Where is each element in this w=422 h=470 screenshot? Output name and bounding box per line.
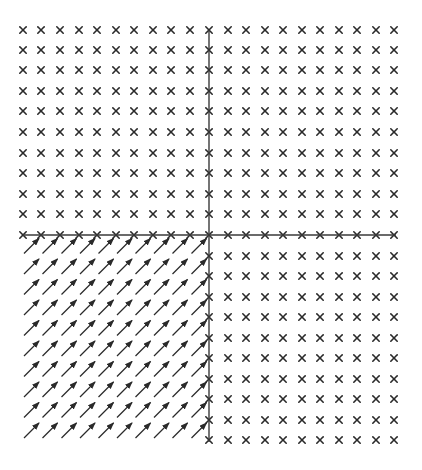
- cross-icon: [262, 191, 268, 197]
- arrow-icon: [117, 362, 132, 377]
- cross-icon: [76, 191, 82, 197]
- cross-icon: [354, 67, 360, 73]
- cross-icon: [243, 150, 249, 156]
- arrow-icon: [43, 280, 58, 295]
- cross-icon: [225, 376, 231, 382]
- arrow-icon: [117, 423, 132, 438]
- cross-icon: [20, 67, 26, 73]
- vector-field-diagram: [0, 0, 422, 470]
- cross-icon: [20, 108, 26, 114]
- cross-icon: [391, 335, 397, 341]
- arrow-icon: [24, 321, 39, 336]
- cross-icon: [94, 150, 100, 156]
- cross-icon: [336, 335, 342, 341]
- cross-icon: [243, 67, 249, 73]
- cross-icon: [262, 108, 268, 114]
- cross-icon: [38, 211, 44, 217]
- cross-icon: [373, 355, 379, 361]
- arrow-icon: [173, 280, 188, 295]
- arrow-icon: [43, 382, 58, 397]
- cross-icon: [391, 150, 397, 156]
- arrow-icon: [173, 239, 188, 254]
- cross-icon: [38, 191, 44, 197]
- diagram-svg: [0, 0, 422, 470]
- cross-icon: [373, 437, 379, 443]
- cross-icon: [299, 191, 305, 197]
- cross-icon: [243, 88, 249, 94]
- cross-icon: [168, 27, 174, 33]
- cross-icon: [280, 27, 286, 33]
- cross-icon: [113, 27, 119, 33]
- arrow-icon: [154, 300, 169, 315]
- cross-icon: [299, 396, 305, 402]
- cross-icon: [168, 129, 174, 135]
- cross-icon: [317, 211, 323, 217]
- cross-icon: [150, 170, 156, 176]
- cross-icon: [225, 437, 231, 443]
- cross-icon: [336, 314, 342, 320]
- cross-icon: [131, 67, 137, 73]
- cross-icon: [94, 67, 100, 73]
- cross-icon: [391, 355, 397, 361]
- cross-icon: [354, 273, 360, 279]
- cross-icon: [20, 211, 26, 217]
- arrow-icon: [154, 321, 169, 336]
- cross-icon: [280, 211, 286, 217]
- cross-icon: [20, 191, 26, 197]
- cross-icon: [94, 211, 100, 217]
- cross-icon: [299, 108, 305, 114]
- cross-icon: [113, 67, 119, 73]
- cross-icon: [262, 273, 268, 279]
- cross-icon: [354, 335, 360, 341]
- arrow-icon: [173, 423, 188, 438]
- cross-icon: [131, 129, 137, 135]
- cross-icon: [76, 108, 82, 114]
- cross-icon: [187, 129, 193, 135]
- cross-icon: [280, 396, 286, 402]
- arrow-icon: [24, 423, 39, 438]
- cross-icon: [354, 376, 360, 382]
- cross-icon: [76, 129, 82, 135]
- cross-icon: [354, 27, 360, 33]
- cross-icon: [225, 47, 231, 53]
- arrow-icon: [80, 321, 95, 336]
- cross-icon: [354, 355, 360, 361]
- cross-icon: [391, 108, 397, 114]
- cross-icon: [150, 108, 156, 114]
- cross-icon: [280, 273, 286, 279]
- arrow-icon: [192, 403, 207, 418]
- cross-icon: [354, 47, 360, 53]
- cross-icon: [113, 88, 119, 94]
- cross-icon: [262, 27, 268, 33]
- arrow-icon: [136, 280, 151, 295]
- cross-icon: [317, 253, 323, 259]
- cross-icon: [391, 437, 397, 443]
- arrow-icon: [62, 280, 77, 295]
- cross-icon: [225, 396, 231, 402]
- cross-icon: [317, 67, 323, 73]
- arrow-icon: [43, 341, 58, 356]
- arrow-icon: [154, 259, 169, 274]
- cross-icon: [336, 108, 342, 114]
- cross-icon: [225, 253, 231, 259]
- cross-icon: [131, 47, 137, 53]
- cross-icon: [113, 47, 119, 53]
- cross-icon: [336, 355, 342, 361]
- cross-icon: [57, 47, 63, 53]
- cross-icon: [225, 417, 231, 423]
- arrow-icon: [117, 403, 132, 418]
- cross-icon: [57, 211, 63, 217]
- arrow-icon: [117, 341, 132, 356]
- cross-icon: [225, 108, 231, 114]
- cross-icon: [391, 273, 397, 279]
- cross-icon: [336, 273, 342, 279]
- cross-icon: [317, 294, 323, 300]
- cross-icon: [299, 417, 305, 423]
- cross-icon: [299, 211, 305, 217]
- cross-icon: [317, 129, 323, 135]
- cross-icon: [131, 27, 137, 33]
- arrow-icon: [80, 259, 95, 274]
- cross-icon: [243, 314, 249, 320]
- cross-icon: [299, 355, 305, 361]
- cross-icon: [373, 88, 379, 94]
